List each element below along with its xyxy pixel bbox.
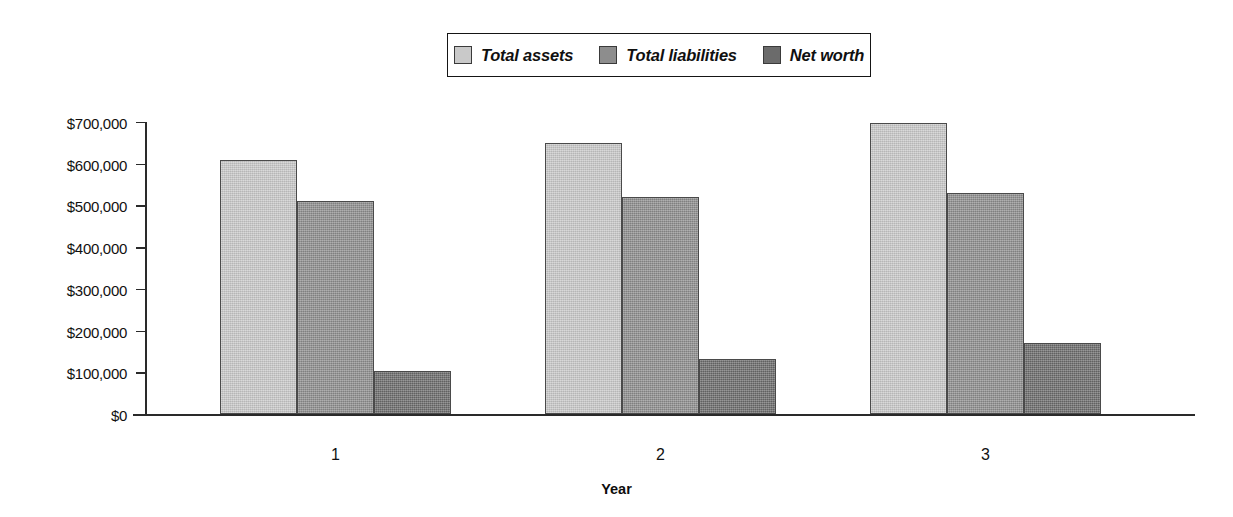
bar: [374, 371, 451, 414]
y-axis-tick: $700,000: [136, 122, 145, 123]
y-axis-tick: $300,000: [136, 289, 145, 290]
legend-swatch-icon: [599, 46, 617, 64]
bar: [622, 197, 699, 414]
legend-label: Total assets: [481, 46, 573, 65]
bar-group: [545, 122, 776, 414]
y-axis-tick: $200,000: [136, 331, 145, 332]
legend-label: Net worth: [790, 46, 864, 65]
bar: [870, 123, 947, 414]
x-axis-category-label: 1: [331, 446, 340, 464]
legend-entry: Total assets: [454, 46, 573, 65]
bar: [699, 359, 776, 414]
bar-group: [220, 122, 451, 414]
x-axis-category-label: 3: [981, 446, 990, 464]
bar: [220, 160, 297, 414]
y-axis-tick-label: $300,000: [67, 281, 127, 298]
legend-label: Total liabilities: [626, 46, 737, 65]
legend-entry: Net worth: [763, 46, 864, 65]
bar: [297, 201, 374, 414]
y-axis-tick: $600,000: [136, 164, 145, 165]
y-axis-tick-label: $700,000: [67, 115, 127, 132]
x-axis-category-label: 2: [656, 446, 665, 464]
bar-group: [870, 122, 1101, 414]
legend-swatch-icon: [454, 46, 472, 64]
y-axis-tick: $0: [136, 414, 145, 415]
bar: [545, 143, 622, 414]
y-axis-tick-label: $200,000: [67, 323, 127, 340]
bar: [1024, 343, 1101, 414]
y-axis-tick: $500,000: [136, 205, 145, 206]
bar-chart: Total assetsTotal liabilitiesNet worth $…: [0, 0, 1233, 517]
x-axis-title: Year: [0, 481, 1233, 497]
y-axis-tick-label: $400,000: [67, 240, 127, 257]
y-axis-tick-label: $500,000: [67, 198, 127, 215]
legend-entry: Total liabilities: [599, 46, 737, 65]
legend-swatch-icon: [763, 46, 781, 64]
y-axis-tick-label: $100,000: [67, 365, 127, 382]
y-axis-tick: $100,000: [136, 372, 145, 373]
y-axis-tick: $400,000: [136, 247, 145, 248]
bar: [947, 193, 1024, 414]
x-axis-line: [133, 414, 1195, 416]
chart-legend: Total assetsTotal liabilitiesNet worth: [447, 33, 871, 77]
y-axis-tick-label: $600,000: [67, 156, 127, 173]
y-axis-tick-label: $0: [111, 407, 127, 424]
y-axis-line: [145, 122, 147, 414]
plot-area: $0$100,000$200,000$300,000$400,000$500,0…: [145, 122, 1195, 414]
